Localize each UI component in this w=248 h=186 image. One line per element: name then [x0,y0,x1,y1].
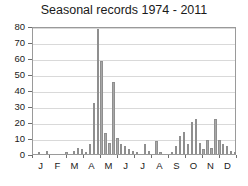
bar [218,140,220,154]
x-tick-label: M [71,160,79,171]
bar [179,136,181,154]
bar [191,122,193,154]
bar [97,29,99,154]
y-tick-label: 0 [20,150,25,159]
bar-series [33,28,235,154]
y-tick-label: 60 [14,54,25,63]
x-tick-label: A [88,160,94,171]
y-tick-label: 50 [14,70,25,79]
x-tick-mark [134,155,135,158]
bar [116,138,118,154]
x-tick-label: D [224,160,231,171]
bar [124,146,126,154]
bar [214,119,216,154]
x-tick-label: J [140,160,145,171]
bar [136,152,138,154]
x-axis: JFMAMJJASOND [32,160,236,176]
y-tick-label: 20 [14,118,25,127]
bar [234,152,236,154]
bar [222,144,224,154]
bar [210,148,212,154]
bar [148,151,150,154]
x-tick-label: J [123,160,128,171]
bar [199,143,201,154]
bar [112,82,114,154]
chart-title: Seasonal records 1974 - 2011 [0,3,248,17]
x-tick-mark [202,155,203,158]
bar [202,149,204,154]
bar [89,144,91,154]
bar [171,152,173,154]
bar [104,133,106,154]
x-tick-mark [151,155,152,158]
bar [132,151,134,154]
bar [77,148,79,154]
bar [100,61,102,154]
plot-area [32,27,236,155]
bar [159,152,161,154]
bar [175,146,177,154]
y-axis: 01020304050607080 [0,0,30,186]
x-tick-mark [219,155,220,158]
bar [46,151,48,154]
bar [187,144,189,154]
x-tick-label: M [105,160,113,171]
y-tick-label: 10 [14,134,25,143]
x-tick-label: A [156,160,162,171]
bar [108,143,110,154]
x-tick-label: N [207,160,214,171]
bar [206,140,208,154]
y-tick-label: 30 [14,102,25,111]
bar [93,103,95,154]
bar [81,149,83,154]
x-tick-mark [117,155,118,158]
x-tick-mark [32,155,33,158]
x-tick-label: S [173,160,179,171]
bar [65,152,67,154]
bar [155,141,157,154]
chart-container: Seasonal records 1974 - 2011 01020304050… [0,0,248,186]
bar [85,152,87,154]
bar [73,151,75,154]
x-tick-mark [49,155,50,158]
y-tick-label: 40 [14,86,25,95]
bar [183,132,185,154]
bar [195,119,197,154]
bar [230,151,232,154]
x-tick-label: J [38,160,43,171]
x-tick-mark [168,155,169,158]
y-tick-label: 70 [14,38,25,47]
x-tick-mark [185,155,186,158]
bar [226,146,228,154]
bar [120,144,122,154]
x-tick-mark [236,155,237,158]
bar [144,144,146,154]
x-tick-mark [83,155,84,158]
y-tick-label: 80 [14,22,25,31]
x-tick-mark [100,155,101,158]
x-tick-label: O [190,160,197,171]
bar [38,152,40,154]
bar [128,149,130,154]
x-tick-mark [66,155,67,158]
x-tick-label: F [55,160,61,171]
